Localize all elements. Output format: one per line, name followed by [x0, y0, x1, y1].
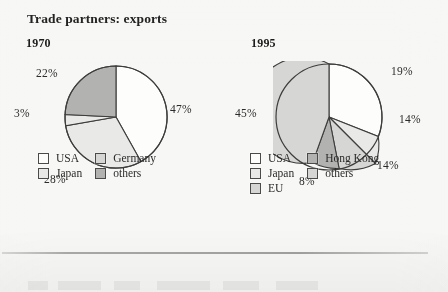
legend-swatch-usa-icon: [250, 153, 261, 164]
legend-1970: USA Germany Japan others: [38, 152, 156, 179]
slice-label-usa-1995: 19%: [391, 65, 413, 77]
legend-item-others-1995[interactable]: others: [307, 167, 379, 179]
legend-swatch-hong-kong-icon: [307, 153, 318, 164]
page-divider-rule: [2, 252, 428, 254]
legend-item-usa-1970[interactable]: USA: [38, 152, 82, 164]
chart-year-1970: 1970: [26, 36, 214, 51]
legend-label-hong-kong: Hong Kong: [325, 152, 379, 164]
legend-item-germany-1970[interactable]: Germany: [95, 152, 156, 164]
legend-label-germany: Germany: [113, 152, 156, 164]
legend-swatch-japan-icon: [38, 168, 49, 179]
legend-swatch-japan-icon: [250, 168, 261, 179]
legend-item-eu-1995[interactable]: EU: [250, 182, 294, 194]
legend-item-japan-1995[interactable]: Japan: [250, 167, 294, 179]
legend-label-usa: USA: [56, 152, 79, 164]
legend-label-japan: Japan: [56, 167, 82, 179]
chart-year-1995: 1995: [251, 36, 439, 51]
legend-item-hong-kong-1995[interactable]: Hong Kong: [307, 152, 379, 164]
pie-slice-others[interactable]: [65, 66, 116, 117]
legend-swatch-usa-icon: [38, 153, 49, 164]
slice-label-eu-1995: 45%: [235, 107, 257, 119]
page-title: Trade partners: exports: [27, 11, 167, 27]
legend-1995: USA Hong Kong Japan others EU: [250, 152, 379, 194]
slice-label-others-1970: 22%: [36, 67, 58, 79]
legend-swatch-eu-icon: [250, 183, 261, 194]
legend-label-japan: Japan: [268, 167, 294, 179]
legend-item-usa-1995[interactable]: USA: [250, 152, 294, 164]
slice-label-others-1995: 14%: [377, 159, 399, 171]
legend-label-others: others: [325, 167, 353, 179]
legend-label-eu: EU: [268, 182, 283, 194]
slice-label-usa-1970: 47%: [170, 103, 192, 115]
slice-label-germany-1970: 3%: [14, 107, 30, 119]
cropped-footer-text: [28, 281, 358, 290]
slice-label-japan-1995: 14%: [399, 113, 421, 125]
legend-item-japan-1970[interactable]: Japan: [38, 167, 82, 179]
legend-swatch-others-icon: [95, 168, 106, 179]
legend-label-others: others: [113, 167, 141, 179]
legend-swatch-germany-icon: [95, 153, 106, 164]
legend-label-usa: USA: [268, 152, 291, 164]
legend-item-others-1970[interactable]: others: [95, 167, 156, 179]
legend-swatch-others-icon: [307, 168, 318, 179]
